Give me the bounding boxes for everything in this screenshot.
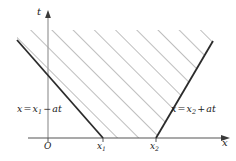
eq-right-operator: + bbox=[196, 103, 206, 114]
x-axis-label: x bbox=[222, 138, 228, 148]
right-characteristic-equation-label: x=x2+at bbox=[171, 104, 216, 115]
eq-left-operator: − bbox=[42, 103, 52, 114]
tick-label-x2: x2 bbox=[150, 142, 159, 152]
hatched-region bbox=[0, 28, 236, 140]
t-axis-label: t bbox=[37, 7, 41, 17]
origin-label: O bbox=[44, 142, 51, 151]
eq-right-term: at bbox=[206, 103, 216, 114]
left-characteristic-equation-label: x=x1−at bbox=[17, 104, 62, 115]
spacetime-diagram-figure: t x O x1 x2 x=x1−at x=x2+at bbox=[0, 0, 236, 161]
eq-left-equals: = bbox=[22, 103, 32, 114]
eq-right-equals: = bbox=[176, 103, 186, 114]
tick-label-x1: x1 bbox=[97, 142, 106, 152]
eq-left-term: at bbox=[52, 103, 62, 114]
tick-label-x1-sub: 1 bbox=[102, 145, 106, 152]
tick-label-x2-sub: 2 bbox=[155, 145, 159, 152]
diagram-canvas bbox=[0, 0, 236, 161]
